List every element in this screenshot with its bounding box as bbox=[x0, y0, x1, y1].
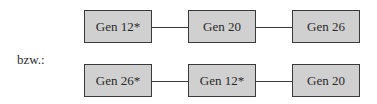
connector-line bbox=[152, 81, 188, 82]
connector-line bbox=[152, 27, 188, 28]
gene-node: Gen 12* bbox=[188, 64, 256, 97]
separator-label: bzw.: bbox=[17, 52, 45, 68]
gene-node: Gen 26 bbox=[292, 10, 360, 43]
gene-node: Gen 20 bbox=[292, 64, 360, 97]
gene-label: Gen 12* bbox=[200, 73, 244, 89]
gene-node: Gen 12* bbox=[84, 10, 152, 43]
gene-node: Gen 26* bbox=[84, 64, 152, 97]
gene-node: Gen 20 bbox=[188, 10, 256, 43]
gene-label: Gen 26 bbox=[307, 19, 345, 35]
gene-label: Gen 26* bbox=[96, 73, 140, 89]
gene-label: Gen 20 bbox=[307, 73, 345, 89]
gene-label: Gen 20 bbox=[203, 19, 241, 35]
connector-line bbox=[256, 27, 292, 28]
gene-label: Gen 12* bbox=[96, 19, 140, 35]
connector-line bbox=[256, 81, 292, 82]
